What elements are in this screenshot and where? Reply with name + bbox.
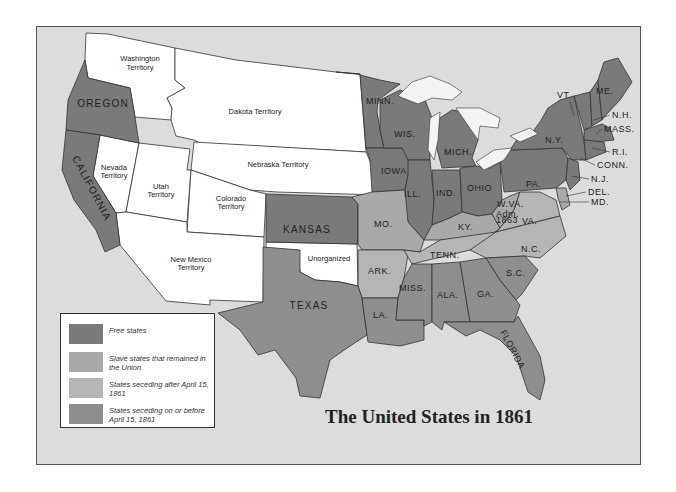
label-wis: WIS. (394, 129, 416, 139)
label-ala: ALA. (437, 290, 459, 300)
legend-label: States seceding after April 15, 1861 (109, 378, 209, 398)
legend-label: States seceding on or before April 15, 1… (109, 404, 209, 424)
label-del: DEL. (588, 187, 610, 197)
label-oregon: OREGON (77, 98, 129, 109)
label-tenn: TENN. (430, 250, 460, 260)
label-mo: MO. (374, 219, 393, 229)
label-conn: CONN. (597, 160, 629, 170)
kansas (266, 194, 358, 244)
label-ohio: OHIO (467, 183, 492, 193)
legend-swatch-seceding-before (69, 404, 103, 424)
legend-swatch-free (69, 324, 103, 344)
maryland-delaware (556, 188, 570, 210)
label-colorado: ColoradoTerritory (216, 194, 246, 211)
legend-item-seceding-after: States seceding after April 15, 1861 (69, 378, 209, 398)
label-nh: N.H. (612, 110, 632, 120)
map-title: The United States in 1861 (325, 406, 533, 428)
label-ky: KY. (458, 222, 473, 232)
legend-label: Slave states that remained in the Union (109, 352, 209, 372)
legend-item-slave-union: Slave states that remained in the Union (69, 352, 209, 372)
legend-item-free: Free states (69, 324, 209, 344)
label-minn: MINN. (366, 96, 394, 106)
label-me: ME. (596, 86, 614, 96)
label-kansas: KANSAS (283, 224, 331, 235)
label-mass: MASS. (604, 124, 635, 134)
label-ny: N.Y. (545, 135, 563, 145)
new-jersey (566, 158, 580, 190)
label-miss: MISS. (399, 283, 426, 293)
legend-label: Free states (109, 324, 209, 335)
label-nebraska: Nebraska Territory (247, 160, 308, 169)
label-nj: N.J. (591, 174, 609, 184)
label-la: LA. (373, 310, 388, 320)
connecticut-ri (584, 140, 606, 160)
label-ark: ARK. (368, 266, 391, 276)
map-legend: Free states Slave states that remained i… (60, 313, 215, 428)
label-texas: TEXAS (290, 300, 329, 311)
label-sc: S.C. (506, 268, 526, 278)
label-md: MD. (591, 197, 609, 207)
label-ill: ILL. (404, 189, 421, 199)
florida (444, 316, 545, 400)
label-va: VA. (522, 216, 537, 226)
legend-swatch-slave-union (69, 352, 103, 372)
label-ri: R.I. (612, 147, 628, 157)
label-vt: VT. (557, 90, 572, 100)
label-ind: IND. (436, 188, 456, 198)
label-nevada: NevadaTerritory (100, 163, 127, 180)
label-wva-note: Adm.1863 (496, 209, 519, 225)
legend-item-seceding-before: States seceding on or before April 15, 1… (69, 404, 209, 424)
label-pa: PA. (526, 179, 541, 189)
label-mich: MICH. (444, 147, 472, 157)
label-wva: W.VA. (497, 199, 524, 209)
label-nc: N.C. (521, 244, 541, 254)
label-ga: GA. (477, 289, 494, 299)
label-dakota: Dakota Territory (229, 107, 282, 116)
legend-swatch-seceding-after (69, 378, 103, 398)
label-iowa: IOWA (381, 166, 407, 176)
dakota-territory (167, 48, 366, 152)
label-unorganized: Unorganized (308, 254, 351, 263)
